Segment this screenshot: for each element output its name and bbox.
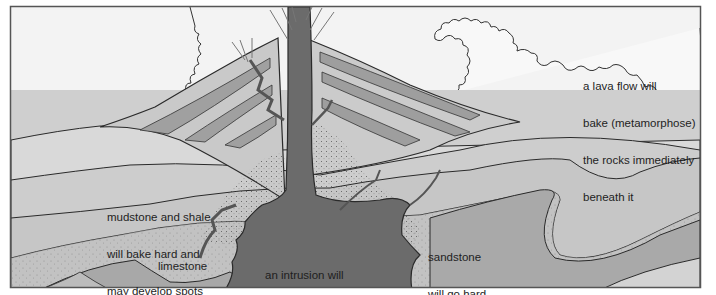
lava-flow-annotation: a lava flow will bake (metamorphose) the… [583,55,696,216]
annotation-line: will go hard [428,288,486,295]
sandstone-annotation: sandstone will go hard and sugary [428,226,486,295]
annotation-line: an intrusion will [265,269,372,281]
annotation-line: bake (metamorphose) [583,117,696,129]
intrusion-annotation: an intrusion will metamorphose rocks for… [265,244,372,295]
annotation-line: beneath it [583,191,696,203]
annotation-line: a lava flow will [583,80,696,92]
limestone-annotation: limestone will turn to marble [158,235,207,295]
annotation-line: limestone [158,260,207,272]
annotation-line: the rocks immediately [583,154,696,166]
annotation-line: sandstone [428,251,486,263]
annotation-line: mudstone and shale [107,211,211,223]
